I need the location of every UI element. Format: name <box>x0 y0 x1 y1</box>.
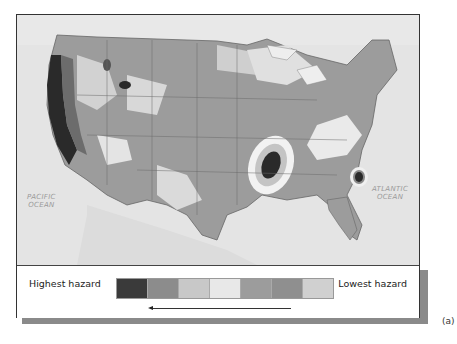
map-frame: PACIFIC OCEAN ATLANTIC OCEAN Highest haz… <box>16 14 420 318</box>
arrow-left-icon <box>151 308 291 309</box>
legend-swatch-3 <box>179 279 210 298</box>
figure-caption: (a) <box>442 316 455 326</box>
legend-swatch-7 <box>303 279 333 298</box>
legend-swatch-5 <box>241 279 272 298</box>
hazard-map: PACIFIC OCEAN ATLANTIC OCEAN <box>17 15 419 266</box>
hazard-legend: Highest hazard Lowest hazard <box>17 266 419 318</box>
pacific-ocean-label: PACIFIC OCEAN <box>27 193 56 209</box>
legend-swatches <box>116 278 334 299</box>
legend-swatch-2 <box>148 279 179 298</box>
atlantic-ocean-label: ATLANTIC OCEAN <box>372 185 408 201</box>
legend-swatch-6 <box>272 279 303 298</box>
us-map-graphic <box>17 15 419 265</box>
lowest-hazard-label: Lowest hazard <box>338 278 407 289</box>
legend-swatch-1 <box>117 279 148 298</box>
legend-swatch-4 <box>210 279 241 298</box>
highest-hazard-label: Highest hazard <box>29 278 101 289</box>
